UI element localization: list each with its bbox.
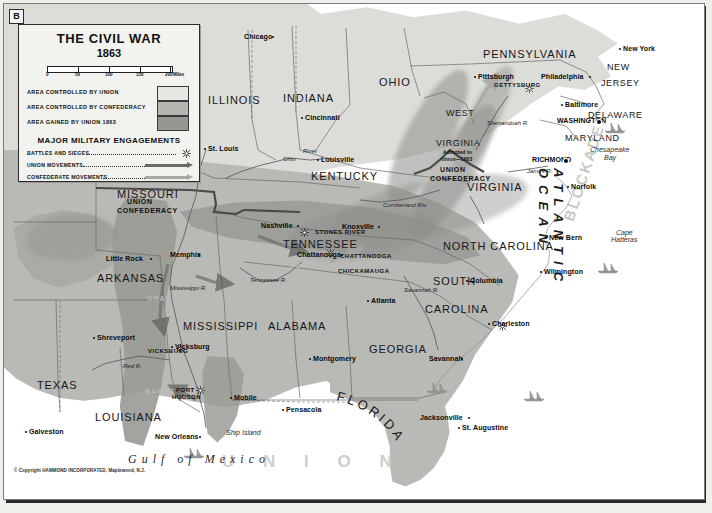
scale-label: 50 xyxy=(75,72,80,77)
legend-leader-line xyxy=(103,178,145,179)
state-label-louisiana: LOUISIANA xyxy=(95,411,162,423)
city-label-nashville: Nashville xyxy=(261,222,293,229)
river-label-cumberland-riv-: Cumberland Riv. xyxy=(383,202,427,208)
legend-key-label: UNION MOVEMENTS xyxy=(27,162,83,168)
river-label-red-r-: Red R. xyxy=(123,363,142,369)
boundary-label-confederacy: CONFEDERACY xyxy=(430,175,491,182)
ship-icon xyxy=(596,262,622,274)
state-label-pennsylvania: PENNSYLVANIA xyxy=(483,48,577,60)
boundary-label-union: UNION xyxy=(440,166,466,173)
city-marker-dot xyxy=(466,280,468,282)
legend-key-label: BATTLES AND SIEGES xyxy=(27,150,89,156)
ship-icon xyxy=(522,390,548,402)
city-marker-dot xyxy=(545,237,547,239)
legend-key-battles: BATTLES AND SIEGES xyxy=(27,148,199,160)
battle-label-chattanooga: CHATTANOOGA xyxy=(340,253,392,259)
city-label-wilmington: Wilmington xyxy=(544,268,583,275)
city-marker-dot xyxy=(468,417,470,419)
annotation-note: Admitted to xyxy=(443,149,472,155)
city-marker-dot xyxy=(619,48,621,50)
scale-label: 150 xyxy=(136,72,144,77)
civil-war-map-plate: U N I O N BLOCKADE ATLANTIC OCEAN ILLINO… xyxy=(0,0,712,513)
city-label-montgomery: Montgomery xyxy=(313,355,356,362)
city-marker-dot xyxy=(204,148,206,150)
city-label-st-louis: St. Louis xyxy=(208,145,238,152)
legend-key-union-movements: UNION MOVEMENTS xyxy=(27,160,199,172)
movement-label-grant: GRANT xyxy=(147,295,177,302)
union-movement-arrow-icon xyxy=(145,164,193,167)
state-label-west: WEST xyxy=(446,108,474,118)
legend-leader-line xyxy=(86,154,176,155)
city-marker-dot xyxy=(474,76,476,78)
legend-engagements-title: MAJOR MILITARY ENGAGEMENTS xyxy=(19,136,199,145)
state-label-virginia: VIRGINIA xyxy=(467,181,523,193)
city-marker-dot xyxy=(282,409,284,411)
city-label-atlanta: Atlanta xyxy=(371,297,395,304)
battle-label-port: PORT xyxy=(176,387,195,393)
state-label-jersey: JERSEY xyxy=(601,78,640,88)
state-label-carolina: CAROLINA xyxy=(425,303,488,315)
city-label-galveston: Galveston xyxy=(29,428,64,435)
city-marker-dot xyxy=(25,431,27,433)
city-marker-dot xyxy=(150,258,152,260)
city-marker-dot xyxy=(488,323,490,325)
city-label-chattanooga: Chattanooga xyxy=(297,251,341,258)
city-marker-dot xyxy=(540,271,542,273)
scale-units-label: Miles xyxy=(173,72,184,77)
city-marker-dot xyxy=(589,76,591,78)
river-label-river: River xyxy=(303,148,317,154)
city-label-baltimore: Baltimore xyxy=(565,101,598,108)
city-label-cincinnati: Cincinnati xyxy=(305,114,340,121)
movement-label-banks: BANKS xyxy=(145,388,175,395)
copyright-notice: © Copyright HAMMOND INCORPORATED, Maplew… xyxy=(14,468,145,473)
city-label-mobile: Mobile xyxy=(234,394,257,401)
boundary-label-union: UNION xyxy=(127,198,153,205)
scale-bar: 0 50 100 150 200 Miles xyxy=(47,66,171,80)
legend-title: THE CIVIL WAR xyxy=(19,32,199,46)
battle-label-gettysburg: GETTYSBURG xyxy=(494,82,541,88)
city-label-st-augustine: St. Augustine xyxy=(462,424,508,431)
state-label-kentucky: KENTUCKY xyxy=(311,170,378,182)
water-label-bay: Bay xyxy=(604,154,616,161)
state-label-maryland: MARYLAND xyxy=(565,133,620,143)
state-label-tennessee: TENNESSEE xyxy=(283,238,358,250)
state-label-arkansas: ARKANSAS xyxy=(97,272,164,284)
city-marker-dot xyxy=(93,337,95,339)
state-label-georgia: GEORGIA xyxy=(369,343,427,355)
city-marker-dot xyxy=(199,436,201,438)
river-label-ohio: Ohio xyxy=(283,156,296,162)
city-label-norfolk: Norfolk xyxy=(571,183,596,190)
plate-letter-badge: B xyxy=(9,9,24,24)
legend-leader-line xyxy=(83,166,145,167)
battle-sunburst-icon xyxy=(182,149,191,158)
city-marker-dot xyxy=(309,358,311,360)
city-marker-dot xyxy=(367,300,369,302)
city-label-philadelphia: Philadelphia xyxy=(541,73,583,80)
water-label-gulf-of-mexico: Gulf of Mexico xyxy=(128,452,270,467)
legend-key-label: CONFEDERATE MOVEMENTS xyxy=(27,174,107,180)
water-label-chesapeake: Chesapeake xyxy=(590,146,629,153)
state-label-north-carolina: NORTH CAROLINA xyxy=(443,240,554,252)
movement-label-rosecrans: ROSECRANS xyxy=(289,262,343,269)
city-label-pensacola: Pensacola xyxy=(286,406,322,413)
city-marker-dot xyxy=(230,397,232,399)
city-label-little-rock: Little Rock xyxy=(106,255,143,262)
scale-label: 100 xyxy=(105,72,113,77)
city-label-louisville: Louisville xyxy=(321,156,354,163)
state-label-new: NEW xyxy=(607,62,630,72)
state-label-mississippi: MISSISSIPPI xyxy=(183,320,258,332)
capital-marker-dot xyxy=(597,120,601,124)
city-label-chicago: Chicago xyxy=(244,33,272,40)
city-label-new-bern: New Bern xyxy=(549,234,582,241)
city-marker-dot xyxy=(317,159,319,161)
state-label-texas: TEXAS xyxy=(37,379,78,391)
city-label-columbia: Columbia xyxy=(470,277,503,284)
water-label-ship-island: Ship Island xyxy=(226,429,261,436)
city-marker-dot xyxy=(561,104,563,106)
city-label-new-york: New York xyxy=(623,45,655,52)
water-label-hatteras: Hatteras xyxy=(611,236,637,243)
river-label-mississippi-r-: Mississippi R. xyxy=(170,285,207,291)
city-label-pittsburgh: Pittsburgh xyxy=(478,73,514,80)
annotation-note: Union—1863 xyxy=(441,156,472,162)
city-label-charleston: Charleston xyxy=(492,320,530,327)
